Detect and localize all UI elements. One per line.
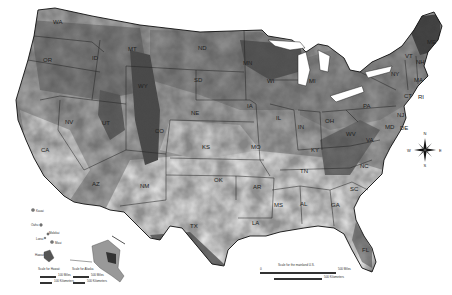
state-label-tx: TX xyxy=(190,223,198,229)
state-label-nj: NJ xyxy=(397,112,404,118)
hawaii-island-label: Kauai xyxy=(36,210,44,213)
state-label-la: LA xyxy=(252,220,259,226)
alaska-miles-label: 500 Miles xyxy=(91,274,104,277)
state-label-pa: PA xyxy=(363,103,371,109)
state-label-nh: NH xyxy=(416,59,425,65)
state-label-id: ID xyxy=(92,55,98,61)
state-label-sd: SD xyxy=(194,77,202,83)
state-label-or: OR xyxy=(43,57,52,63)
state-label-nv: NV xyxy=(65,119,73,125)
state-label-ne: NE xyxy=(191,110,199,116)
mainland-miles-label: 500 Miles xyxy=(338,268,351,271)
state-label-ut: UT xyxy=(102,120,110,126)
state-label-md: MD xyxy=(385,124,394,130)
state-label-nm: NM xyxy=(140,183,149,189)
state-label-al: AL xyxy=(300,201,307,207)
state-label-wv: WV xyxy=(346,131,356,137)
state-label-ks: KS xyxy=(202,144,210,150)
hawaii-miles-label: 100 Miles xyxy=(58,274,71,277)
state-label-ca: CA xyxy=(41,147,49,153)
hawaii-km-bar xyxy=(40,282,52,284)
state-label-ok: OK xyxy=(214,177,223,183)
state-label-nd: ND xyxy=(198,45,207,51)
state-label-wa: WA xyxy=(53,19,62,25)
mainland-km-bar xyxy=(274,278,322,280)
state-label-fl: FL xyxy=(362,247,369,253)
state-label-ar: AR xyxy=(253,184,261,190)
compass-n: N xyxy=(424,131,427,136)
hawaii-island-label: Maui xyxy=(55,242,62,245)
compass-w: W xyxy=(407,148,411,153)
compass-rose: N S W E xyxy=(412,135,438,165)
alaska-miles-bar xyxy=(73,276,89,278)
hawaii-island-label: Hawaii xyxy=(35,254,44,257)
state-label-vt: VT xyxy=(405,53,413,59)
state-label-mt: MT xyxy=(128,46,137,52)
state-label-ga: GA xyxy=(331,202,340,208)
state-label-nc: NC xyxy=(360,163,369,169)
compass-e: E xyxy=(439,148,442,153)
state-label-wy: WY xyxy=(138,83,148,89)
state-label-va: VA xyxy=(366,137,374,143)
hawaii-island-label: Oahu xyxy=(31,224,38,227)
hawaii-scale-title: Scale for Hawaii xyxy=(38,268,60,271)
state-label-oh: OH xyxy=(325,118,334,124)
mainland-scale-zero: 0 xyxy=(260,268,262,271)
mainland-km-label: 500 Kilometers xyxy=(324,276,344,279)
state-label-tn: TN xyxy=(300,168,308,174)
alaska-km-bar xyxy=(73,282,85,284)
state-label-il: IL xyxy=(276,115,281,121)
state-label-ct: CT xyxy=(404,93,412,99)
state-label-sc: SC xyxy=(350,186,358,192)
state-label-me: ME xyxy=(427,39,436,45)
state-label-mo: MO xyxy=(251,144,261,150)
alaska-km-label: 500 Kilometers xyxy=(87,280,107,283)
compass-star-icon xyxy=(412,135,438,165)
hawaii-island-label: Molokai xyxy=(49,232,59,235)
alaska-scale-title: Scale for Alaska xyxy=(72,268,94,271)
state-label-in: IN xyxy=(298,124,304,130)
state-label-mi: MI xyxy=(309,78,316,84)
us-choropleth-map xyxy=(0,0,452,295)
state-label-az: AZ xyxy=(92,181,100,187)
hawaii-km-label: 100 Kilometers xyxy=(54,280,74,283)
hawaii-miles-bar xyxy=(40,276,56,278)
state-label-ma: MA xyxy=(414,77,423,83)
compass-s: S xyxy=(424,163,427,168)
state-label-ia: IA xyxy=(247,103,253,109)
state-label-ri: RI xyxy=(418,94,424,100)
state-label-ny: NY xyxy=(391,71,399,77)
mainland-scale-title: Scale for the mainland U.S. xyxy=(278,264,315,267)
mainland-miles-bar xyxy=(260,272,336,274)
state-label-mn: MN xyxy=(243,60,252,66)
state-label-co: CO xyxy=(155,128,164,134)
state-label-de: DE xyxy=(400,125,408,131)
hawaii-island-label: Lanai xyxy=(36,238,43,241)
state-label-ky: KY xyxy=(311,147,319,153)
state-label-wi: WI xyxy=(267,78,274,84)
state-label-ms: MS xyxy=(274,202,283,208)
